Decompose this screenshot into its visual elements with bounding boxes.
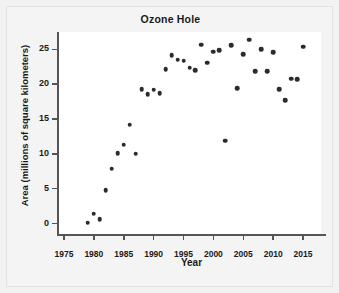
- x-tick-mark: [123, 235, 125, 240]
- scatter-point: [92, 212, 97, 217]
- scatter-point: [86, 221, 91, 226]
- scatter-point: [217, 48, 222, 53]
- scatter-point: [169, 53, 174, 58]
- scatter-point: [295, 77, 300, 82]
- scatter-point: [139, 87, 144, 92]
- x-tick-mark: [213, 235, 215, 240]
- scatter-point: [301, 44, 306, 49]
- scatter-point: [127, 122, 132, 127]
- scatter-point: [205, 60, 210, 65]
- chart-title: Ozone Hole: [7, 13, 334, 25]
- x-tick-mark: [63, 235, 65, 240]
- scatter-point: [277, 87, 282, 92]
- scatter-point: [157, 91, 162, 96]
- scatter-point: [271, 50, 276, 55]
- scatter-point: [199, 42, 204, 47]
- x-axis-label: Year: [57, 257, 326, 268]
- x-tick-mark: [302, 235, 304, 240]
- scatter-point: [109, 166, 114, 171]
- scatter-point: [104, 188, 109, 193]
- scatter-point: [265, 69, 270, 74]
- scatter-point: [223, 138, 228, 143]
- scatter-point: [175, 58, 180, 63]
- x-tick-mark: [272, 235, 274, 240]
- y-axis-line: [57, 32, 59, 235]
- figure-container: Ozone Hole 0510152025 197519801985199019…: [0, 0, 339, 293]
- scatter-point: [115, 151, 120, 156]
- x-tick-mark: [183, 235, 185, 240]
- y-tick-mark: [52, 118, 57, 120]
- scatter-point: [211, 49, 216, 54]
- scatter-point: [241, 52, 246, 57]
- x-axis-line: [57, 234, 326, 236]
- scatter-point: [163, 67, 168, 72]
- scatter-point: [283, 98, 288, 103]
- scatter-point: [289, 76, 294, 81]
- scatter-point: [253, 69, 258, 74]
- scatter-point: [247, 37, 252, 42]
- y-tick-mark: [52, 83, 57, 85]
- scatter-point: [193, 68, 198, 73]
- x-tick-mark: [153, 235, 155, 240]
- x-tick-mark: [93, 235, 95, 240]
- x-tick-mark: [243, 235, 245, 240]
- y-axis-label: Area (millions of square kilometers): [19, 16, 30, 236]
- y-tick-mark: [52, 223, 57, 225]
- scatter-point: [259, 47, 264, 52]
- scatter-point: [98, 217, 103, 222]
- plot-area: [58, 32, 321, 234]
- scatter-point: [133, 152, 138, 157]
- scatter-point: [151, 88, 156, 93]
- scatter-point: [121, 143, 126, 148]
- y-tick-mark: [52, 49, 57, 51]
- figure-inner-panel: Ozone Hole 0510152025 197519801985199019…: [6, 6, 333, 287]
- scatter-point: [229, 43, 234, 48]
- scatter-point: [181, 58, 186, 63]
- scatter-point: [187, 65, 192, 70]
- x-tick-label-wrap: 2015: [283, 243, 323, 255]
- y-tick-mark: [52, 153, 57, 155]
- y-tick-mark: [52, 188, 57, 190]
- scatter-point: [235, 86, 240, 91]
- scatter-point: [145, 92, 150, 97]
